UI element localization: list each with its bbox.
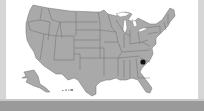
bottom-bar [0, 99, 204, 111]
bottom-bar-sheen [0, 99, 204, 101]
contiguous-us [26, 5, 175, 96]
highlight-marker-south-carolina[interactable] [140, 59, 145, 64]
hawaii [62, 89, 73, 91]
alaska [22, 70, 50, 92]
us-map [0, 0, 204, 111]
